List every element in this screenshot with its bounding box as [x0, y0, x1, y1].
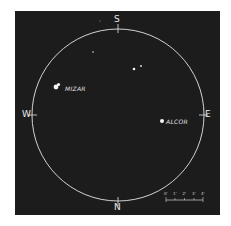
- scale-tick-label: 4': [201, 192, 205, 196]
- compass-south-label: S: [114, 15, 120, 24]
- mizar-label: MIZAR: [65, 86, 86, 92]
- compass-east-label: E: [205, 110, 211, 119]
- alcor-star: [160, 119, 164, 123]
- scale-tick-label: 3': [192, 192, 196, 196]
- field-circle: [32, 29, 204, 201]
- scale-tick-label: 0': [164, 192, 168, 196]
- compass-north-label: N: [114, 203, 121, 212]
- field-star: [92, 51, 94, 53]
- scale-tick-label: 1': [173, 192, 177, 196]
- star-field-diagram: [0, 0, 231, 226]
- alcor-label: ALCOR: [166, 119, 188, 125]
- field-star: [133, 68, 136, 71]
- scale-tick-label: 2': [183, 192, 187, 196]
- compass-west-label: W: [22, 110, 31, 119]
- field-star: [99, 20, 100, 21]
- mizar-star-b: [57, 83, 60, 86]
- field-star: [140, 65, 142, 67]
